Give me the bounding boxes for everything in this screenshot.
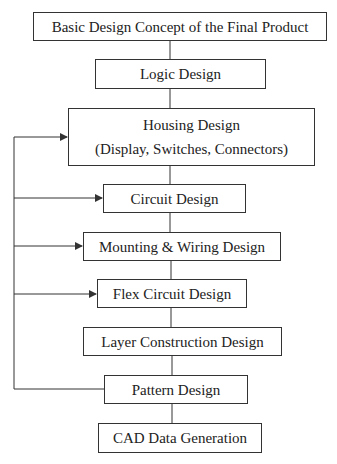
node-label: Circuit Design xyxy=(131,190,219,208)
node-label: Basic Design Concept of the Final Produc… xyxy=(52,18,309,36)
node-mounting-wiring-design: Mounting & Wiring Design xyxy=(83,232,281,261)
flowchart-diagram: Basic Design Concept of the Final Produc… xyxy=(0,0,337,464)
node-label: Housing Design xyxy=(143,116,240,134)
node-circuit-design: Circuit Design xyxy=(103,184,246,213)
node-layer-construction-design: Layer Construction Design xyxy=(83,327,282,356)
node-cad-data-generation: CAD Data Generation xyxy=(98,423,262,453)
node-label: Mounting & Wiring Design xyxy=(99,238,265,256)
node-logic-design: Logic Design xyxy=(95,59,266,89)
node-label: Pattern Design xyxy=(132,381,221,399)
node-sublabel: (Display, Switches, Connectors) xyxy=(95,140,288,158)
node-label: CAD Data Generation xyxy=(113,429,247,447)
node-label: Flex Circuit Design xyxy=(113,285,231,303)
node-pattern-design: Pattern Design xyxy=(104,375,248,404)
node-label: Logic Design xyxy=(140,65,221,83)
node-basic-design-concept: Basic Design Concept of the Final Produc… xyxy=(33,12,327,41)
node-flex-circuit-design: Flex Circuit Design xyxy=(97,279,247,308)
node-housing-design: Housing Design (Display, Switches, Conne… xyxy=(68,108,315,166)
node-label: Layer Construction Design xyxy=(101,333,263,351)
